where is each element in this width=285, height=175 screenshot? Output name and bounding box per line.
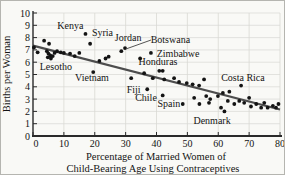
data-point xyxy=(249,105,253,109)
data-point xyxy=(227,90,231,94)
country-label: Lesotho xyxy=(40,61,72,72)
y-tick-label: 6 xyxy=(25,57,30,68)
data-point xyxy=(73,54,77,58)
x-tick-label: 30 xyxy=(121,138,131,149)
data-point xyxy=(32,46,36,50)
data-point xyxy=(242,101,246,105)
data-point xyxy=(36,50,40,54)
y-tick-label: 5 xyxy=(25,69,30,80)
country-label: Spain xyxy=(157,98,180,109)
data-point xyxy=(181,102,185,106)
data-point xyxy=(172,76,176,80)
data-point xyxy=(254,102,258,106)
data-point xyxy=(88,42,92,46)
data-point xyxy=(226,99,230,103)
country-label: Honduras xyxy=(139,56,178,67)
country-label: Costa Rica xyxy=(221,72,265,83)
x-tick-label: 70 xyxy=(244,138,254,149)
x-axis-title-line1: Percentage of Married Women of xyxy=(86,151,227,162)
data-point xyxy=(198,102,202,106)
country-label: Kenya xyxy=(57,20,84,31)
x-tick-label: 50 xyxy=(182,138,192,149)
data-point xyxy=(223,110,227,114)
data-point xyxy=(107,55,111,59)
data-point xyxy=(77,51,81,55)
data-point xyxy=(177,80,181,84)
data-point xyxy=(207,101,211,105)
data-point xyxy=(84,32,88,36)
country-label: Denmark xyxy=(193,115,230,126)
data-point xyxy=(47,42,51,46)
data-point xyxy=(219,106,223,110)
x-tick-label: 40 xyxy=(152,138,162,149)
data-point xyxy=(123,46,127,50)
data-point xyxy=(277,102,281,106)
data-point xyxy=(129,76,133,80)
country-label: Chile xyxy=(135,92,157,103)
y-tick-label: 10 xyxy=(20,8,30,19)
y-tick-label: 3 xyxy=(25,94,30,105)
data-point xyxy=(237,99,241,103)
data-point xyxy=(55,49,59,53)
country-label: Syria xyxy=(92,27,114,38)
scatter-figure: 01020304050607080012345678910KenyaSyriaJ… xyxy=(0,0,285,175)
data-point xyxy=(262,101,266,105)
data-point xyxy=(266,106,270,110)
data-point xyxy=(62,51,66,55)
y-tick-label: 4 xyxy=(25,81,30,92)
data-point xyxy=(68,52,72,56)
data-point xyxy=(259,106,263,110)
country-label: Botswana xyxy=(151,34,191,45)
y-tick-label: 8 xyxy=(25,32,30,43)
country-label: Vietnam xyxy=(75,72,109,83)
data-point xyxy=(202,78,206,82)
data-point xyxy=(274,106,278,110)
x-tick-label: 10 xyxy=(59,138,69,149)
data-point xyxy=(192,96,196,100)
data-point xyxy=(204,94,208,98)
y-tick-label: 9 xyxy=(25,20,30,31)
scatter-plot: 01020304050607080012345678910KenyaSyriaJ… xyxy=(1,1,285,175)
data-point xyxy=(161,69,165,73)
data-point xyxy=(161,94,165,98)
country-label: Jordan xyxy=(115,32,142,43)
x-tick-label: 20 xyxy=(90,138,100,149)
x-axis-title-line2: Child-Bearing Age Using Contraceptives xyxy=(67,163,240,174)
data-point xyxy=(142,71,146,75)
y-tick-label: 7 xyxy=(25,44,30,55)
data-point xyxy=(185,81,189,85)
data-point xyxy=(162,78,166,82)
data-point xyxy=(151,76,155,80)
data-point xyxy=(208,97,212,101)
data-point xyxy=(119,49,123,53)
data-point xyxy=(149,51,153,55)
data-point xyxy=(239,84,243,88)
data-point xyxy=(97,59,101,63)
x-tick-label: 0 xyxy=(34,138,39,149)
x-tick-label: 80 xyxy=(275,138,285,149)
data-point xyxy=(221,91,225,95)
y-tick-label: 2 xyxy=(25,106,30,117)
data-point xyxy=(232,102,236,106)
x-tick-label: 60 xyxy=(213,138,223,149)
data-point xyxy=(157,69,161,73)
data-point xyxy=(42,39,46,43)
data-point xyxy=(191,82,195,86)
y-axis-title: Births per Woman xyxy=(1,35,12,112)
data-point xyxy=(197,84,201,88)
data-point xyxy=(145,87,149,91)
y-tick-label: 1 xyxy=(25,118,30,129)
data-point xyxy=(247,96,251,100)
data-point xyxy=(216,94,220,98)
y-tick-label: 0 xyxy=(25,131,30,142)
